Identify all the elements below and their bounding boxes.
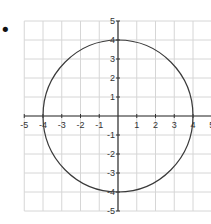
y-tick-label: 1 [110, 92, 115, 102]
x-tick-label: -5 [20, 120, 28, 130]
circle-graph: -5-4-3-2-11234554321-1-2-3-4-5 [0, 0, 211, 224]
y-tick-label: 3 [110, 54, 115, 64]
y-tick-label: -5 [107, 206, 115, 216]
x-tick-label: 2 [153, 120, 158, 130]
y-tick-label: -2 [107, 149, 115, 159]
axes [24, 21, 211, 211]
x-tick-label: -1 [95, 120, 103, 130]
y-tick-label: 2 [110, 73, 115, 83]
x-tick-label: -3 [58, 120, 66, 130]
x-tick-label: -2 [76, 120, 84, 130]
y-tick-label: 5 [110, 16, 115, 26]
y-tick-label: -3 [107, 168, 115, 178]
x-tick-label: 5 [209, 120, 211, 130]
x-tick-label: 3 [172, 120, 177, 130]
y-tick-label: -1 [107, 130, 115, 140]
x-tick-label: 1 [134, 120, 139, 130]
